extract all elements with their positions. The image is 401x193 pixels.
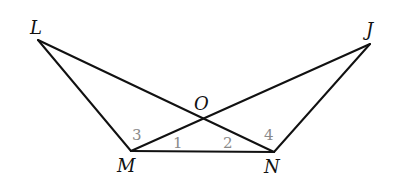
segment-LM xyxy=(38,40,131,151)
vertex-label-O: O xyxy=(194,93,209,114)
vertex-label-J: J xyxy=(362,19,375,40)
segment-JN xyxy=(274,44,370,152)
diagram-canvas: LJMNO 3124 xyxy=(0,0,401,193)
angle-label-2: 2 xyxy=(223,134,233,152)
angle-labels-group: 3124 xyxy=(132,126,274,152)
vertex-label-M: M xyxy=(116,155,136,176)
angle-label-4: 4 xyxy=(264,126,274,144)
angle-label-3: 3 xyxy=(132,126,142,144)
angle-label-1: 1 xyxy=(173,134,183,152)
vertex-label-N: N xyxy=(263,156,281,177)
segment-MN xyxy=(131,151,274,152)
geometry-diagram: LJMNO 3124 xyxy=(0,0,401,193)
vertex-label-L: L xyxy=(29,17,42,38)
segment-LN xyxy=(38,40,274,152)
segment-JM xyxy=(131,44,370,151)
